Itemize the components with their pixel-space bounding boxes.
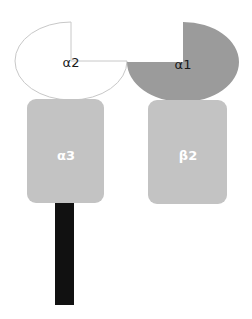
alpha1-label: α1 [175, 57, 192, 72]
alpha2-label: α2 [63, 55, 80, 70]
alpha3-label: α3 [57, 148, 75, 163]
diagram-canvas [0, 0, 252, 319]
beta2-label: β2 [179, 148, 197, 163]
transmembrane-bar [55, 203, 74, 305]
